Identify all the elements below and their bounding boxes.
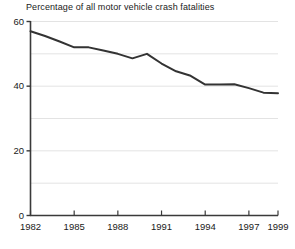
y-tick-label: 0 [2, 210, 24, 221]
x-tick-label: 1994 [188, 221, 222, 232]
y-tick-label: 20 [2, 145, 24, 156]
x-tick-label: 1982 [14, 221, 48, 232]
y-tick-label: 40 [2, 80, 24, 91]
x-tick-label: 1988 [101, 221, 135, 232]
chart-plot-area: 0204060 1982198519881991199419971999 [0, 0, 295, 249]
line-chart-svg [0, 0, 295, 249]
data-series-line [31, 31, 279, 93]
y-tick-label: 60 [2, 16, 24, 27]
chart-screenshot: Percentage of all motor vehicle crash fa… [0, 0, 295, 249]
x-tick-label: 1999 [261, 221, 295, 232]
x-tick-label: 1985 [57, 221, 91, 232]
x-tick-label: 1991 [145, 221, 179, 232]
